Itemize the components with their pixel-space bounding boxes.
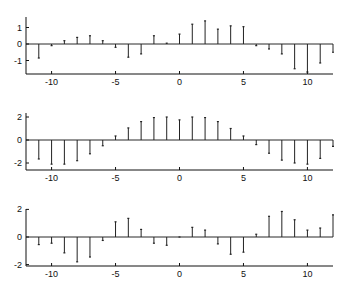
x-tick-label: 10	[302, 77, 312, 87]
y-tick-label: -2	[14, 158, 22, 168]
y-tick-label: 2	[17, 204, 22, 214]
subplot-1: -101-10-50510	[14, 17, 334, 87]
x-tick-label: -10	[45, 77, 58, 87]
x-tick-label: -5	[112, 173, 120, 183]
x-tick-label: 0	[177, 77, 182, 87]
y-tick-label: 1	[17, 23, 22, 33]
y-tick-label: 0	[17, 39, 22, 49]
y-tick-label: 2	[17, 112, 22, 122]
x-tick-label: 0	[177, 269, 182, 279]
x-tick-label: 0	[177, 173, 182, 183]
stem-plots-canvas: -101-10-50510 -202-10-50510 -202-10-5051…	[0, 0, 351, 295]
y-tick-label: 0	[17, 232, 22, 242]
x-tick-label: -5	[112, 77, 120, 87]
x-tick-label: 10	[302, 269, 312, 279]
y-tick-label: -2	[14, 260, 22, 270]
figure: -101-10-50510 -202-10-50510 -202-10-5051…	[0, 0, 351, 295]
subplot-2: -202-10-50510	[14, 112, 334, 183]
y-tick-label: 0	[17, 135, 22, 145]
x-tick-label: 5	[241, 269, 246, 279]
y-tick-label: -1	[14, 56, 22, 66]
x-tick-label: 5	[241, 77, 246, 87]
x-tick-label: -10	[45, 173, 58, 183]
x-tick-label: -5	[112, 269, 120, 279]
x-tick-label: 10	[302, 173, 312, 183]
x-tick-label: 5	[241, 173, 246, 183]
x-tick-label: -10	[45, 269, 58, 279]
subplot-3: -202-10-50510	[14, 204, 334, 279]
